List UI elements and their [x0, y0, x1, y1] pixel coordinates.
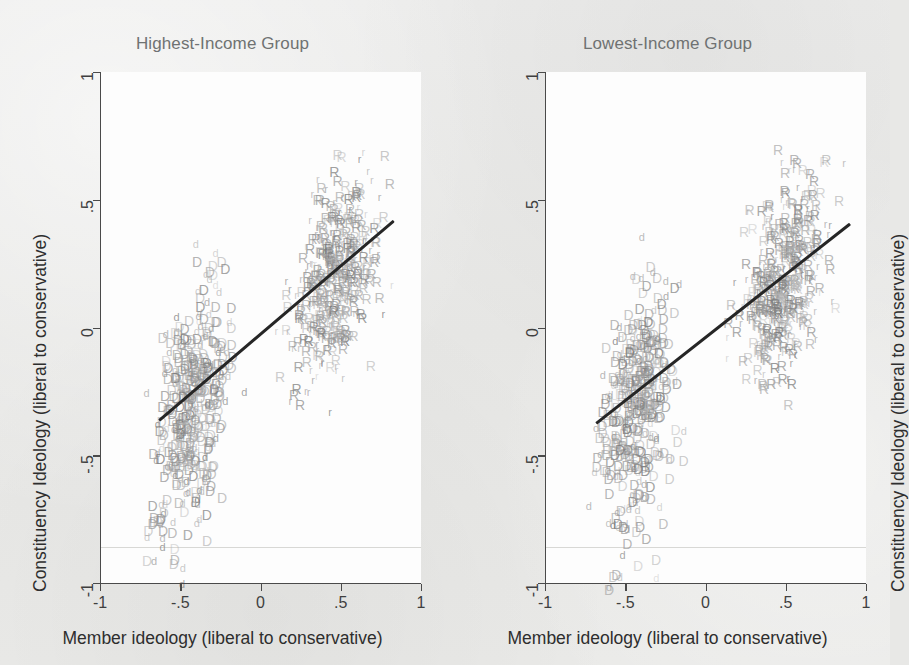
x-axis-tick	[625, 584, 626, 591]
x-axis-tick-label: -.5	[616, 594, 635, 612]
x-axis-tick-label: -.5	[171, 594, 190, 612]
x-axis-tick	[341, 584, 342, 591]
plot-canvas	[100, 72, 421, 583]
x-axis-tick	[706, 584, 707, 591]
y-axis-title-lowest-income: Constituency Ideology (liberal to conser…	[888, 234, 909, 592]
x-axis-tick	[786, 584, 787, 591]
x-axis-tick-label: -1	[538, 594, 552, 612]
x-axis-tick	[421, 584, 422, 591]
y-axis-tick-label: -.5	[524, 455, 542, 474]
y-axis-tick-label: 1	[524, 72, 542, 81]
panel-title-lowest-income: Lowest-Income Group	[445, 34, 890, 54]
x-axis-title-lowest-income: Member ideology (liberal to conservative…	[445, 628, 890, 649]
x-axis-tick-label: 0	[256, 594, 265, 612]
scan-artifact-line	[100, 547, 421, 548]
x-axis-tick	[866, 584, 867, 591]
y-axis-line	[100, 72, 101, 583]
scan-artifact-line	[545, 547, 866, 548]
x-axis-tick	[545, 584, 546, 591]
y-axis-tick-label: 1	[79, 72, 97, 81]
y-axis-line	[545, 72, 546, 583]
scatter-marker-democrat: D	[604, 583, 614, 597]
panel-title-highest-income: Highest-Income Group	[0, 34, 445, 54]
y-axis-tick-label: -.5	[79, 455, 97, 474]
x-axis-tick-label: 1	[862, 594, 871, 612]
x-axis-tick-label: -1	[93, 594, 107, 612]
y-axis-tick-label: 0	[79, 328, 97, 337]
y-axis-tick-label: 0	[524, 328, 542, 337]
y-axis-title-highest-income: Constituency Ideology (liberal to conser…	[30, 234, 51, 592]
x-axis-tick	[100, 584, 101, 591]
x-axis-tick-label: 1	[417, 594, 426, 612]
x-axis-tick	[180, 584, 181, 591]
plot-canvas	[545, 72, 866, 583]
x-axis-tick-label: .5	[779, 594, 792, 612]
panel-highest-income: Highest-Income Group DDddDDdDDDDDDDdDDdD…	[0, 0, 445, 665]
x-axis-tick	[261, 584, 262, 591]
x-axis-title-highest-income: Member ideology (liberal to conservative…	[0, 628, 445, 649]
y-axis-tick-label: .5	[79, 200, 97, 213]
x-axis-tick-label: 0	[701, 594, 710, 612]
panel-lowest-income: Lowest-Income Group DDdDDdDdDddDdDdDddDd…	[445, 0, 890, 665]
x-axis-tick-label: .5	[334, 594, 347, 612]
y-axis-tick-label: .5	[524, 200, 542, 213]
